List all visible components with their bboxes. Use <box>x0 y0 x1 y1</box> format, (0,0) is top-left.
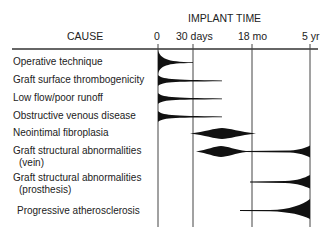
bar-graft-structural-prosthesis <box>250 175 310 189</box>
timeline-diagram <box>0 0 326 236</box>
bar-graft-surface-thrombogenicity <box>158 75 222 86</box>
bar-low-flow <box>158 93 222 104</box>
bar-graft-structural-vein-diamond <box>196 146 246 157</box>
bar-graft-structural-vein-late <box>246 146 310 158</box>
bar-operative-technique <box>158 50 193 74</box>
bar-progressive-atherosclerosis <box>240 199 310 219</box>
bar-neointimal-fibroplasia <box>190 128 256 139</box>
bar-obstructive-venous-disease <box>158 111 222 122</box>
